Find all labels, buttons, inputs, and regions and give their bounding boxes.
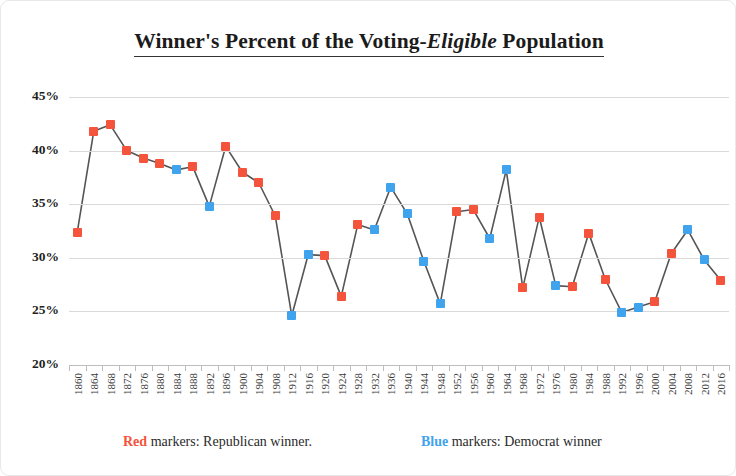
x-axis-tick-label: 1960 bbox=[484, 373, 496, 395]
x-axis-tick-label: 1868 bbox=[105, 373, 117, 395]
title-emphasis: Eligible bbox=[427, 29, 497, 53]
x-axis-tick bbox=[185, 365, 186, 371]
title-part-after: Population bbox=[497, 29, 604, 53]
data-point-marker bbox=[700, 255, 709, 264]
data-point-marker bbox=[287, 311, 296, 320]
y-axis-tick-label: 40% bbox=[13, 142, 59, 158]
x-axis-tick-label: 1988 bbox=[600, 373, 612, 395]
data-point-marker bbox=[238, 168, 247, 177]
x-axis-tick bbox=[630, 365, 631, 371]
x-axis-tick-label: 1860 bbox=[72, 373, 84, 395]
data-point-marker bbox=[469, 205, 478, 214]
x-axis-tick bbox=[366, 365, 367, 371]
data-point-marker bbox=[601, 275, 610, 284]
x-axis-tick bbox=[168, 365, 169, 371]
gridline bbox=[69, 204, 729, 205]
x-axis-tick bbox=[399, 365, 400, 371]
x-axis-tick-label: 1932 bbox=[369, 373, 381, 395]
x-axis-tick-label: 1952 bbox=[451, 373, 463, 395]
data-point-marker bbox=[535, 213, 544, 222]
data-point-marker bbox=[320, 251, 329, 260]
x-axis-tick-label: 1880 bbox=[154, 373, 166, 395]
x-axis-tick bbox=[416, 365, 417, 371]
x-axis-tick bbox=[284, 365, 285, 371]
x-axis-tick bbox=[383, 365, 384, 371]
data-point-marker bbox=[584, 229, 593, 238]
x-axis-tick-label: 1940 bbox=[402, 373, 414, 395]
gridline bbox=[69, 151, 729, 152]
x-axis-tick bbox=[729, 365, 730, 371]
x-axis-tick-label: 1900 bbox=[237, 373, 249, 395]
chart-figure: Winner's Percent of the Voting-Eligible … bbox=[0, 0, 736, 476]
x-axis-tick-label: 1928 bbox=[352, 373, 364, 395]
x-axis-tick-label: 2008 bbox=[682, 373, 694, 395]
x-axis-tick-label: 1924 bbox=[336, 373, 348, 395]
x-axis-tick-label: 1980 bbox=[567, 373, 579, 395]
x-axis-tick-label: 1892 bbox=[204, 373, 216, 395]
data-point-marker bbox=[221, 142, 230, 151]
data-point-marker bbox=[634, 303, 643, 312]
data-point-marker bbox=[370, 225, 379, 234]
x-axis-tick-label: 1912 bbox=[286, 373, 298, 395]
x-axis-tick-label: 1968 bbox=[517, 373, 529, 395]
data-point-marker bbox=[683, 225, 692, 234]
x-axis-tick bbox=[696, 365, 697, 371]
x-axis-tick bbox=[531, 365, 532, 371]
x-axis-tick-label: 1896 bbox=[220, 373, 232, 395]
legend: Red markers: Republican winner. Blue mar… bbox=[1, 434, 736, 456]
x-axis-tick bbox=[713, 365, 714, 371]
x-axis-tick-label: 1992 bbox=[616, 373, 628, 395]
x-axis-tick-label: 1956 bbox=[468, 373, 480, 395]
x-axis-tick-label: 1920 bbox=[319, 373, 331, 395]
legend-label-democrat: markers: Democrat winner bbox=[448, 434, 602, 449]
x-axis-tick bbox=[234, 365, 235, 371]
x-axis-tick-label: 2004 bbox=[666, 373, 678, 395]
data-point-marker bbox=[403, 209, 412, 218]
data-point-marker bbox=[89, 127, 98, 136]
x-axis-tick-label: 1996 bbox=[633, 373, 645, 395]
x-axis-tick bbox=[498, 365, 499, 371]
data-point-marker bbox=[485, 234, 494, 243]
y-axis-tick-label: 20% bbox=[13, 356, 59, 372]
x-axis-tick-label: 2016 bbox=[715, 373, 727, 395]
data-point-marker bbox=[452, 207, 461, 216]
data-point-marker bbox=[205, 202, 214, 211]
data-point-marker bbox=[568, 282, 577, 291]
y-axis-tick-label: 45% bbox=[13, 88, 59, 104]
gridline bbox=[69, 258, 729, 259]
x-axis-tick-label: 1948 bbox=[435, 373, 447, 395]
x-axis-tick bbox=[350, 365, 351, 371]
x-axis-ticks bbox=[69, 365, 729, 372]
data-point-marker bbox=[650, 297, 659, 306]
data-point-marker bbox=[254, 178, 263, 187]
x-axis-tick bbox=[251, 365, 252, 371]
data-point-marker bbox=[106, 120, 115, 129]
data-point-marker bbox=[155, 159, 164, 168]
x-axis-tick-label: 1916 bbox=[303, 373, 315, 395]
x-axis-tick bbox=[102, 365, 103, 371]
x-axis-tick bbox=[267, 365, 268, 371]
data-point-marker bbox=[172, 165, 181, 174]
x-axis-tick bbox=[432, 365, 433, 371]
x-axis-tick bbox=[597, 365, 598, 371]
legend-key-red: Red bbox=[123, 434, 147, 449]
data-point-marker bbox=[667, 249, 676, 258]
x-axis-tick bbox=[581, 365, 582, 371]
legend-key-blue: Blue bbox=[421, 434, 448, 449]
x-axis-tick-label: 1908 bbox=[270, 373, 282, 395]
x-axis-tick-label: 1984 bbox=[583, 373, 595, 395]
data-point-marker bbox=[502, 165, 511, 174]
data-point-marker bbox=[271, 211, 280, 220]
data-point-marker bbox=[716, 276, 725, 285]
x-axis-tick-label: 1904 bbox=[253, 373, 265, 395]
x-axis-tick-label: 1884 bbox=[171, 373, 183, 395]
y-axis-tick-label: 25% bbox=[13, 302, 59, 318]
x-axis-tick bbox=[680, 365, 681, 371]
x-axis-tick bbox=[201, 365, 202, 371]
x-axis-tick bbox=[647, 365, 648, 371]
y-axis-labels: 20%25%30%35%40%45% bbox=[13, 97, 59, 365]
data-point-marker bbox=[337, 292, 346, 301]
title-part-before: Winner's Percent of the Voting- bbox=[134, 29, 427, 53]
data-point-marker bbox=[386, 183, 395, 192]
x-axis-tick-label: 1936 bbox=[385, 373, 397, 395]
